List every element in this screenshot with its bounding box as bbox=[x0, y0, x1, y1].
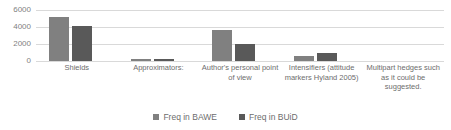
category-label: Approximators: bbox=[118, 63, 200, 73]
bar[interactable] bbox=[154, 59, 174, 61]
legend-item[interactable]: Freq in BUiD bbox=[239, 113, 298, 122]
bars-layer bbox=[36, 10, 444, 61]
bar[interactable] bbox=[294, 56, 314, 61]
bar-group bbox=[281, 10, 363, 61]
y-tick-label: 2000 bbox=[13, 40, 31, 48]
bar-group bbox=[199, 10, 281, 61]
bar[interactable] bbox=[49, 17, 69, 61]
bar[interactable] bbox=[131, 59, 151, 61]
chart-legend: Freq in BAWEFreq in BUiD bbox=[0, 110, 451, 124]
bar[interactable] bbox=[212, 30, 232, 61]
legend-swatch-icon bbox=[153, 114, 159, 120]
bar-chart: 0200040006000 ShieldsApproximators:Autho… bbox=[0, 0, 451, 130]
category-label: Shields bbox=[36, 63, 118, 73]
axis-baseline bbox=[36, 61, 444, 62]
x-axis-category-labels: ShieldsApproximators:Author's personal p… bbox=[36, 63, 444, 107]
bar[interactable] bbox=[72, 26, 92, 61]
legend-label: Freq in BAWE bbox=[163, 113, 217, 122]
legend-swatch-icon bbox=[239, 114, 245, 120]
bar-group bbox=[118, 10, 200, 61]
bar-group bbox=[362, 10, 444, 61]
y-axis: 0200040006000 bbox=[0, 0, 34, 71]
category-label: Multipart hedges such as it could be sug… bbox=[362, 63, 444, 92]
y-tick-label: 6000 bbox=[13, 6, 31, 14]
y-tick-label: 0 bbox=[27, 57, 31, 65]
category-label: Intensifiers (attitude markers Hyland 20… bbox=[281, 63, 363, 82]
y-tick-label: 4000 bbox=[13, 23, 31, 31]
bar-group bbox=[36, 10, 118, 61]
legend-item[interactable]: Freq in BAWE bbox=[153, 113, 217, 122]
category-label: Author's personal point of view bbox=[199, 63, 281, 82]
legend-label: Freq in BUiD bbox=[249, 113, 298, 122]
bar[interactable] bbox=[317, 53, 337, 61]
bar[interactable] bbox=[235, 44, 255, 61]
